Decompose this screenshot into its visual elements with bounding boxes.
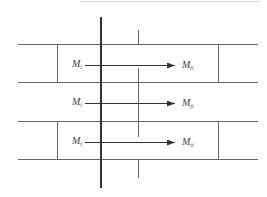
row2-from-label: Mi <box>72 97 82 110</box>
row2-to-label: Mji <box>182 98 194 111</box>
row3-to-label: Mti <box>182 137 194 150</box>
arrows <box>85 66 175 143</box>
row3-from-label: Mi <box>72 136 82 149</box>
row1-to-label: Mti <box>182 60 194 73</box>
row1-from-label: Mi <box>72 59 82 72</box>
diagram-canvas <box>0 0 267 197</box>
